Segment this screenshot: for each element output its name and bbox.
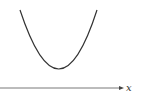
x-axis-label: x (126, 82, 132, 93)
parabola-diagram: x (0, 0, 153, 105)
x-axis-arrowhead (119, 86, 124, 90)
parabola-curve (20, 10, 97, 69)
